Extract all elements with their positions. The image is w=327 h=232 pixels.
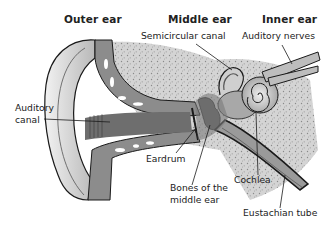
label-auditory-canal-line1: Auditory	[15, 102, 54, 113]
header-middle-ear: Middle ear	[168, 13, 232, 25]
label-cochlea: Cochlea	[234, 174, 271, 185]
label-eustachian-tube: Eustachian tube	[243, 207, 317, 218]
header-inner-ear: Inner ear	[262, 13, 317, 25]
label-auditory-canal-line2: canal	[15, 114, 40, 125]
ear-anatomy-diagram: Outer ear Middle ear Inner ear Semicircu…	[0, 0, 327, 232]
label-auditory-nerves: Auditory nerves	[242, 30, 315, 41]
label-bones-line1: Bones of the	[170, 182, 228, 193]
label-bones-line2: middle ear	[170, 194, 219, 205]
label-semicircular-canal: Semicircular canal	[141, 30, 226, 41]
header-outer-ear: Outer ear	[64, 13, 122, 25]
label-eardrum: Eardrum	[146, 153, 185, 164]
